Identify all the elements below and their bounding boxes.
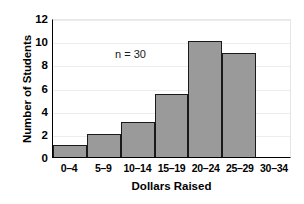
x-axis-tick-label: 20–24 [189, 160, 223, 176]
bar [155, 94, 189, 157]
x-axis-tick-label: 0–4 [52, 160, 86, 176]
histogram-chart: Number of Students 024681012 n = 30 0–45… [0, 0, 304, 204]
bar-slot [53, 20, 87, 157]
x-axis-tick-label: 5–9 [86, 160, 120, 176]
y-axis-tick-label: 2 [26, 130, 48, 140]
x-axis-title: Dollars Raised [52, 180, 291, 192]
x-axis-tick-label: 25–29 [223, 160, 257, 176]
plot-area: n = 30 [52, 19, 291, 158]
bar-slot [87, 20, 121, 157]
y-axis-tick-label: 6 [26, 84, 48, 94]
y-axis-tick-label: 4 [26, 107, 48, 117]
bar [53, 145, 87, 157]
y-axis-tick-label: 10 [26, 37, 48, 47]
y-axis-tick-label: 0 [26, 153, 48, 163]
sample-size-annotation: n = 30 [115, 48, 146, 60]
y-axis-tick-label: 12 [26, 14, 48, 24]
x-axis-tick-label: 15–19 [154, 160, 188, 176]
x-axis-tick-labels: 0–45–910–1415–1920–2425–2930–34 [52, 160, 291, 176]
bar-slot [155, 20, 189, 157]
bar [121, 122, 155, 157]
bars-container [53, 20, 290, 157]
x-axis-tick-label: 30–34 [257, 160, 291, 176]
bar-slot [188, 20, 222, 157]
bar-slot [256, 20, 290, 157]
y-axis-tick-label: 8 [26, 60, 48, 70]
bar [222, 53, 256, 157]
bar-slot [222, 20, 256, 157]
y-axis-tick-labels: 024681012 [22, 19, 48, 158]
bar [87, 134, 121, 157]
bar [188, 41, 222, 157]
bar-slot [121, 20, 155, 157]
x-axis-tick-label: 10–14 [120, 160, 154, 176]
